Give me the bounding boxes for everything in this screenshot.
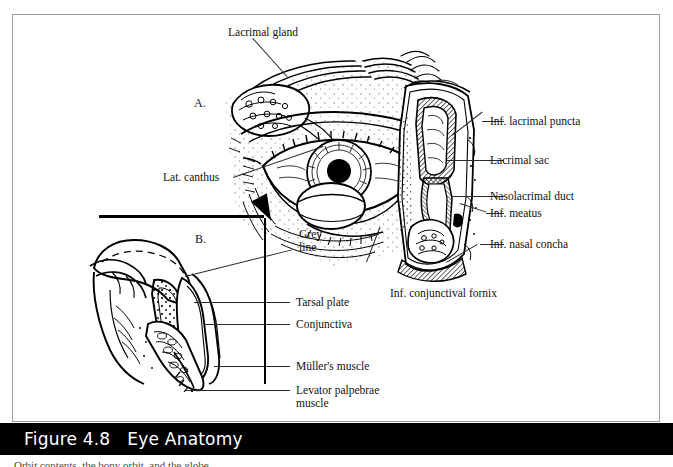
nasolacrimal-section-illustration	[388, 78, 498, 283]
figure-caption-bar: Figure 4.8 Eye Anatomy	[0, 423, 673, 455]
label-levator-palpebrae-muscle: Levator palpebrae muscle	[296, 384, 388, 409]
panel-transition-arrow-stem	[99, 215, 264, 218]
figure-caption-title: Eye Anatomy	[127, 429, 242, 449]
label-inf-meatus: Inf. meatus	[490, 207, 542, 220]
label-nasolacrimal-duct: Nasolacrimal duct	[490, 190, 574, 203]
leader-mullers-muscle	[214, 366, 290, 367]
label-mullers-muscle: Müller's muscle	[296, 360, 369, 373]
label-lacrimal-sac: Lacrimal sac	[490, 154, 549, 167]
figure-caption-number: Figure 4.8	[24, 429, 110, 449]
label-panel-a: A.	[194, 97, 206, 110]
label-panel-b: B.	[195, 233, 206, 246]
label-inf-conjunctival-fornix: Inf. conjunctival fornix	[390, 287, 497, 300]
leader-conjunctiva	[204, 324, 290, 325]
label-conjunctiva: Conjunctiva	[296, 318, 352, 331]
panel-b-vertical-pointer	[264, 218, 266, 384]
label-lat-canthus: Lat. canthus	[163, 171, 219, 184]
label-lacrimal-gland: Lacrimal gland	[228, 26, 298, 39]
panel-b-illustration	[88, 232, 288, 392]
label-grey-line: Grey line	[299, 228, 333, 253]
figure-caption: Figure 4.8 Eye Anatomy	[24, 423, 243, 455]
leader-levator-palpebrae	[186, 390, 290, 391]
label-tarsal-plate: Tarsal plate	[296, 296, 349, 309]
label-inf-nasal-concha: Inf. nasal concha	[490, 238, 568, 251]
figure-page: Lacrimal gland A. Lat. canthus Inf. lacr…	[0, 0, 673, 467]
leader-tarsal-plate	[194, 302, 290, 303]
body-text-clipped: Orbit contents, the bony orbit, and the …	[14, 459, 414, 467]
label-inf-lacrimal-puncta: Inf. lacrimal puncta	[490, 115, 580, 128]
